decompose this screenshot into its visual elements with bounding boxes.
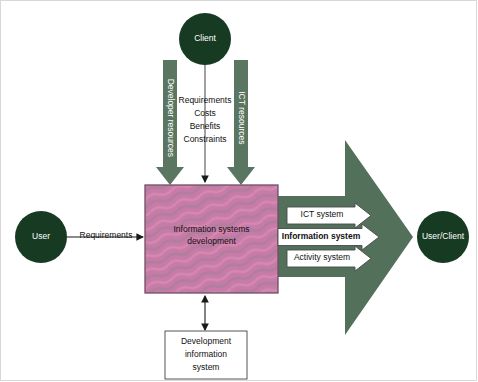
- client-input-costs: Costs: [163, 109, 247, 119]
- output-label-information-system: Information system: [280, 232, 362, 242]
- dev-info-box-line3: system: [165, 363, 247, 373]
- output-label-ict-system: ICT system: [289, 210, 355, 220]
- user-requirements-label: Requirements: [68, 231, 144, 241]
- client-input-benefits: Benefits: [163, 122, 247, 132]
- output-label-activity-system: Activity system: [289, 253, 355, 263]
- user-client-label: User/Client: [413, 232, 473, 242]
- client-input-requirements: Requirements: [163, 96, 247, 106]
- isd-box-line2: development: [145, 237, 278, 247]
- dev-info-box-line2: information: [165, 350, 247, 360]
- dev-info-box-line1: Development: [165, 337, 247, 347]
- isd-box-line1: Information systems: [145, 225, 278, 235]
- client-input-constraints: Constraints: [163, 135, 247, 145]
- diagram-canvas: Client User User/Client Developer resour…: [0, 0, 478, 382]
- user-label: User: [16, 232, 66, 242]
- client-label: Client: [180, 34, 230, 44]
